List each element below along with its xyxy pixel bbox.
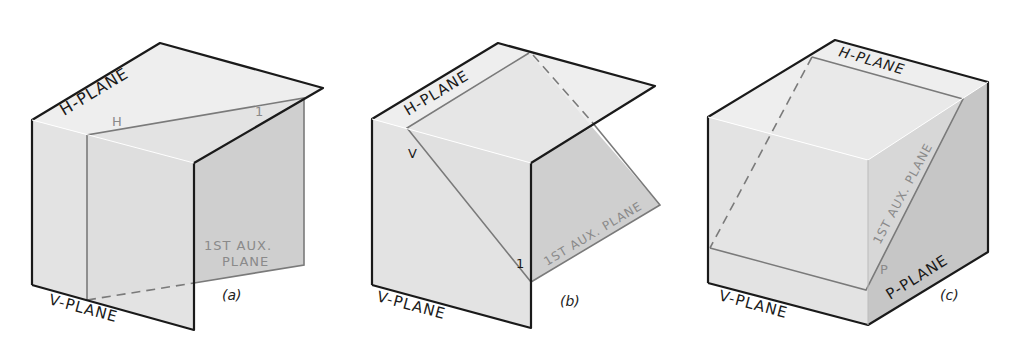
fold-label-v-b: V: [408, 146, 418, 161]
caption-a: (a): [222, 287, 242, 303]
caption-b: (b): [560, 293, 580, 309]
figure-b: H-PLANE V 1 1ST AUX. PLANE V-PLANE (b): [372, 43, 660, 328]
aux-label-a-1: 1ST AUX.: [204, 238, 272, 253]
fold-label-1-a: 1: [255, 104, 264, 119]
figure-c: H-PLANE 1ST AUX. PLANE P P-PLANE V-PLANE…: [708, 40, 988, 325]
aux-label-a-2: PLANE: [222, 254, 269, 269]
projection-planes-diagram: H-PLANE H 1 1ST AUX. PLANE V-PLANE (a) H…: [0, 0, 1016, 356]
fold-label-1-b: 1: [516, 256, 525, 271]
figure-a: H-PLANE H 1 1ST AUX. PLANE V-PLANE (a): [32, 43, 323, 330]
caption-c: (c): [940, 287, 959, 303]
fold-label-p-c: P: [880, 262, 889, 277]
fold-label-h-a: H: [112, 114, 123, 129]
